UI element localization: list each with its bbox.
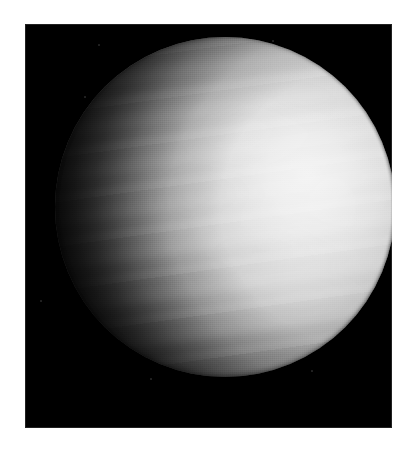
- background-speck: [311, 370, 313, 372]
- page: Venus gibbous: [0, 0, 408, 451]
- background-speck: [150, 378, 152, 380]
- image-phase-label: gibbous: [0, 0, 1, 1]
- background-speck: [98, 44, 100, 46]
- photographic-plate: [25, 24, 392, 428]
- planet-limb-edge: [55, 37, 392, 377]
- background-speck: [40, 300, 42, 302]
- background-speck: [272, 40, 274, 42]
- image-subject-label: Venus: [0, 0, 1, 1]
- background-speck: [84, 96, 86, 98]
